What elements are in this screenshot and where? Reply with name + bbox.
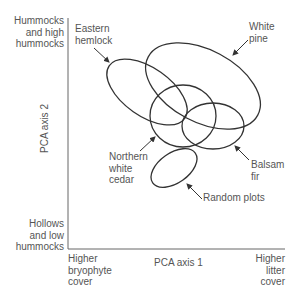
y-top-label: Hummocks and high hummocks <box>6 15 64 50</box>
y-axis-title: PCA axis 2 <box>39 99 50 159</box>
eastern-hemlock-label: Eastern hemlock <box>75 23 112 46</box>
label-line: fir <box>251 171 284 183</box>
x-axis-title: PCA axis 1 <box>154 257 203 269</box>
white-pine-label: White pine <box>249 21 275 44</box>
label-line: White <box>249 21 275 33</box>
x-right-label: Higher litter cover <box>230 253 285 288</box>
pine-arrow <box>233 40 248 55</box>
x-right-line: Higher <box>230 253 285 265</box>
y-bottom-line: Hollows <box>6 218 64 230</box>
x-right-line: litter <box>230 265 285 277</box>
y-bottom-line: hummocks <box>6 241 64 253</box>
hemlock-arrow <box>94 48 109 62</box>
balsam-fir-ellipse <box>182 103 244 149</box>
label-line: Random plots <box>203 192 265 204</box>
label-line: Eastern <box>75 23 112 35</box>
random-plots-label: Random plots <box>203 192 265 204</box>
random-plots-arrow <box>187 184 202 199</box>
x-right-line: cover <box>230 276 285 288</box>
label-line: Balsam <box>251 159 284 171</box>
label-line: Northern <box>109 151 148 163</box>
y-bottom-line: and low <box>6 230 64 242</box>
y-top-line: hummocks <box>6 38 64 50</box>
balsam-arrow <box>235 146 249 160</box>
label-line: white <box>109 163 148 175</box>
y-bottom-label: Hollows and low hummocks <box>6 218 64 253</box>
x-left-label: Higher bryophyte cover <box>68 253 112 288</box>
y-top-line: and high <box>6 27 64 39</box>
label-line: cedar <box>109 174 148 186</box>
northern-white-cedar-label: Northern white cedar <box>109 151 148 186</box>
random-plots-ellipse <box>144 141 204 195</box>
label-line: hemlock <box>75 35 112 47</box>
cedar-arrow <box>140 137 155 151</box>
label-line: pine <box>249 33 275 45</box>
x-left-line: Higher <box>68 253 112 265</box>
x-left-line: bryophyte <box>68 265 112 277</box>
x-left-line: cover <box>68 276 112 288</box>
y-top-line: Hummocks <box>6 15 64 27</box>
balsam-fir-label: Balsam fir <box>251 159 284 182</box>
